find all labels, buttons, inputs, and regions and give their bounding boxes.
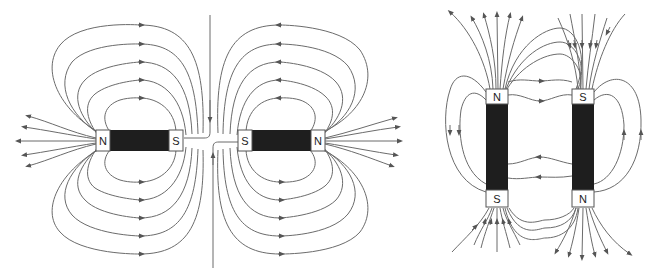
right-magnet-north-label: N <box>314 135 322 147</box>
left-magnet-side-loops <box>446 76 486 192</box>
right-magnet-south-label: S <box>241 135 248 147</box>
left-vertical-south-label: S <box>493 193 500 205</box>
bottom-right-fan-lines <box>556 208 630 258</box>
right-magnet-field-lines-top <box>218 25 368 135</box>
left-magnet-north-label: N <box>99 135 107 147</box>
left-magnet-south-label: S <box>172 135 179 147</box>
left-bar-magnet: N S <box>96 130 183 151</box>
left-vertical-magnet: N S <box>486 89 508 207</box>
right-vertical-north-label: N <box>579 193 587 205</box>
middle-connecting-lines <box>508 80 572 179</box>
attracting-diagram: N S S N <box>446 12 641 258</box>
right-bar-magnet: S N <box>238 130 325 151</box>
right-vertical-magnet: S N <box>572 89 594 207</box>
left-vertical-north-label: N <box>493 91 501 103</box>
magnetic-field-diagrams: N S S N <box>0 0 658 272</box>
right-magnet-field-lines-bottom <box>218 147 368 254</box>
right-magnet-side-loops <box>594 79 641 192</box>
bottom-connecting-arches <box>505 208 578 240</box>
top-right-converging-lines <box>558 14 625 89</box>
right-vertical-south-label: S <box>579 91 586 103</box>
repelling-diagram: N S S N <box>18 15 400 268</box>
left-magnet-field-lines-top <box>52 25 203 135</box>
left-magnet-field-lines-bottom <box>52 147 203 254</box>
